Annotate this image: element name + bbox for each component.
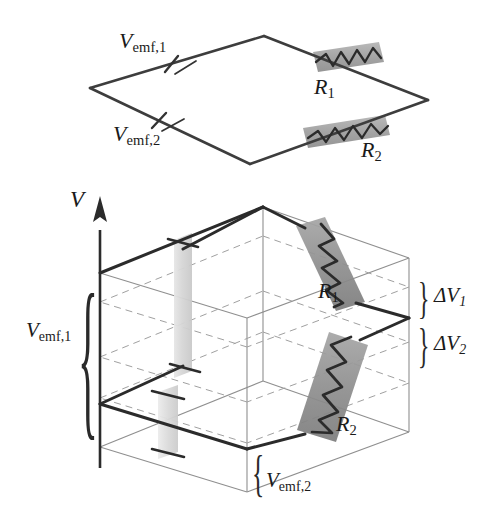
label-dv1-3d: ΔV1 [434, 285, 466, 306]
wire-top-right-segment [264, 36, 428, 100]
label-emf1-3d: Vemf,1 [26, 320, 71, 341]
label-dv1-3d-symbol: ΔV [434, 283, 459, 307]
potential-diagram-group [93, 196, 409, 492]
label-r2-3d: R2 [336, 413, 357, 435]
label-emf2-top-subscript: emf,2 [126, 132, 160, 148]
physics-figure: Vemf,1 Vemf,2 R1 R2 V Vemf,1 { } ΔV1 } Δ… [0, 0, 498, 526]
label-dv2-3d-symbol: ΔV [434, 331, 459, 355]
label-r2-top-symbol: R [361, 137, 374, 162]
label-r2-top-subscript: 2 [374, 148, 381, 164]
label-dv1-3d-subscript: 1 [459, 294, 466, 309]
v-axis-arrowhead [93, 196, 107, 222]
path-apex-to-r1 [263, 207, 305, 228]
label-emf1-top-symbol: V [119, 28, 132, 53]
circuit-path-3d [100, 207, 409, 449]
emf-column-1 [174, 233, 192, 378]
brace-dv2: } [418, 322, 429, 371]
label-emf1-3d-symbol: V [26, 318, 39, 342]
label-emf1-top: Vemf,1 [119, 30, 166, 52]
label-dv2-3d-subscript: 2 [459, 342, 466, 357]
label-r1-3d: R1 [318, 280, 339, 302]
label-emf1-3d-subscript: emf,1 [39, 329, 71, 344]
path-r1-to-right-vertex [356, 303, 409, 318]
label-emf2-3d-subscript: emf,2 [279, 479, 311, 494]
label-r2-top: R2 [361, 139, 382, 161]
label-r1-3d-subscript: 1 [331, 289, 338, 305]
label-emf2-top: Vemf,2 [113, 123, 160, 145]
label-emf2-3d-symbol: V [266, 468, 279, 492]
circuit-path-3d-rear [183, 207, 263, 249]
label-r1-top-subscript: 1 [327, 85, 334, 101]
label-emf2-3d: Vemf,2 [266, 470, 311, 491]
brace-emf1: { [78, 270, 98, 447]
brace-dv1: } [418, 277, 429, 320]
figure-canvas [0, 0, 498, 526]
label-r2-3d-symbol: R [336, 411, 349, 436]
path-right-vertex-to-r2 [360, 318, 409, 340]
path-emf1-top-to-apex [183, 207, 263, 249]
label-v-axis: V [70, 188, 84, 211]
label-r1-top: R1 [314, 76, 335, 98]
label-r2-3d-subscript: 2 [349, 422, 356, 438]
wire-top-left-segment [90, 36, 264, 88]
label-emf2-top-symbol: V [113, 121, 126, 146]
label-dv2-3d: ΔV2 [434, 333, 466, 354]
label-r1-3d-symbol: R [318, 278, 331, 303]
label-emf1-top-subscript: emf,1 [132, 39, 166, 55]
brace-emf2: { [252, 447, 264, 498]
label-r1-top-symbol: R [314, 74, 327, 99]
